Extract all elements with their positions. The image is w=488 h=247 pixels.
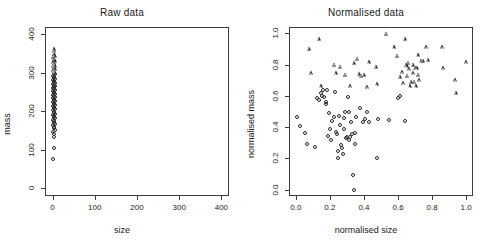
data-point-triangle xyxy=(52,47,56,51)
x-ticklabel-normalised: 0.4 xyxy=(358,203,369,212)
data-point-circle xyxy=(328,127,332,131)
data-point-circle xyxy=(403,119,407,123)
x-tick-normalised xyxy=(432,196,433,200)
data-point-triangle xyxy=(400,70,404,74)
data-point-circle xyxy=(367,120,371,124)
panel-raw-data: Raw data size mass 010020030040001002003… xyxy=(0,0,244,247)
data-point-circle xyxy=(340,146,344,150)
x-axis-title-raw: size xyxy=(0,225,244,235)
x-ticklabel-raw: 0 xyxy=(50,203,54,212)
data-point-triangle xyxy=(348,84,352,88)
y-tick-normalised xyxy=(285,127,289,128)
data-point-triangle xyxy=(374,64,378,68)
data-point-triangle xyxy=(412,79,416,83)
data-point-circle xyxy=(353,142,357,146)
data-point-circle xyxy=(298,124,302,128)
data-point-circle xyxy=(335,132,339,136)
data-point-triangle xyxy=(416,53,420,57)
panel-title-normalised: Normalised data xyxy=(244,7,488,18)
data-point-triangle xyxy=(334,71,338,75)
data-point-triangle xyxy=(343,72,347,76)
data-point-circle xyxy=(330,119,334,123)
data-point-triangle xyxy=(464,60,468,64)
y-tick-raw xyxy=(41,150,45,151)
data-point-circle xyxy=(387,118,391,122)
y-ticklabel-normalised: 0.6 xyxy=(271,90,280,101)
x-tick-normalised xyxy=(364,196,365,200)
y-axis-title-normalised: normalised mass xyxy=(246,89,256,157)
panel-normalised-data: Normalised data normalised size normalis… xyxy=(244,0,488,247)
x-axis-title-normalised: normalised size xyxy=(244,225,488,235)
data-point-triangle xyxy=(408,84,412,88)
data-point-triangle xyxy=(367,60,371,64)
y-ticklabel-normalised: 1.0 xyxy=(271,28,280,39)
y-ticklabel-normalised: 0.2 xyxy=(271,153,280,164)
data-point-triangle xyxy=(384,32,388,36)
x-tick-normalised xyxy=(330,196,331,200)
data-point-circle xyxy=(338,123,342,127)
y-ticklabel-normalised: 0.4 xyxy=(271,122,280,133)
data-point-circle xyxy=(365,110,369,114)
data-point-triangle xyxy=(421,58,425,62)
data-point-triangle xyxy=(319,84,323,88)
x-ticklabel-raw: 300 xyxy=(173,203,186,212)
data-point-triangle xyxy=(426,57,430,61)
panel-title-raw: Raw data xyxy=(0,7,244,18)
x-ticklabel-raw: 200 xyxy=(130,203,143,212)
data-point-circle xyxy=(313,145,317,149)
data-point-triangle xyxy=(362,72,366,76)
data-point-triangle xyxy=(365,85,369,89)
x-ticklabel-normalised: 1.0 xyxy=(461,203,472,212)
data-point-circle xyxy=(51,157,55,161)
data-point-circle xyxy=(326,134,330,138)
data-point-circle xyxy=(325,88,329,92)
y-tick-raw xyxy=(41,34,45,35)
x-tick-normalised xyxy=(398,196,399,200)
data-point-triangle xyxy=(338,64,342,68)
data-point-circle xyxy=(351,173,355,177)
data-point-circle xyxy=(376,117,380,121)
x-tick-raw xyxy=(179,196,180,200)
x-ticklabel-normalised: 0.6 xyxy=(392,203,403,212)
data-point-circle xyxy=(336,156,340,160)
data-point-triangle xyxy=(454,90,458,94)
data-point-circle xyxy=(354,115,358,119)
figure-two-panel-scatter: Raw data size mass 010020030040001002003… xyxy=(0,0,488,247)
data-point-circle xyxy=(352,188,356,192)
x-ticklabel-normalised: 0.0 xyxy=(290,203,301,212)
data-point-triangle xyxy=(392,45,396,49)
data-point-triangle xyxy=(403,36,407,40)
data-point-circle xyxy=(317,98,321,102)
data-point-circle xyxy=(363,117,367,121)
data-point-triangle xyxy=(401,81,405,85)
data-point-triangle xyxy=(398,75,402,79)
data-point-triangle xyxy=(317,36,321,40)
data-point-circle xyxy=(305,142,309,146)
data-point-circle xyxy=(398,94,402,98)
y-tick-raw xyxy=(41,73,45,74)
data-point-circle xyxy=(347,110,351,114)
data-point-triangle xyxy=(395,54,399,58)
data-point-circle xyxy=(295,115,299,119)
data-point-triangle xyxy=(453,78,457,82)
data-point-circle xyxy=(342,127,346,131)
data-point-triangle xyxy=(355,57,359,61)
y-tick-raw xyxy=(41,188,45,189)
y-ticklabel-raw: 300 xyxy=(27,66,36,79)
y-tick-normalised xyxy=(285,65,289,66)
data-point-triangle xyxy=(332,62,336,66)
data-point-triangle xyxy=(440,45,444,49)
data-point-triangle xyxy=(424,45,428,49)
y-tick-normalised xyxy=(285,96,289,97)
x-ticklabel-normalised: 0.2 xyxy=(324,203,335,212)
data-point-circle xyxy=(303,131,307,135)
data-point-triangle xyxy=(414,84,418,88)
x-tick-raw xyxy=(95,196,96,200)
data-point-circle xyxy=(324,102,328,106)
x-tick-normalised xyxy=(296,196,297,200)
data-point-triangle xyxy=(441,66,445,70)
data-point-triangle xyxy=(415,66,419,70)
y-ticklabel-raw: 400 xyxy=(27,27,36,40)
y-tick-normalised xyxy=(285,158,289,159)
data-point-triangle xyxy=(309,71,313,75)
